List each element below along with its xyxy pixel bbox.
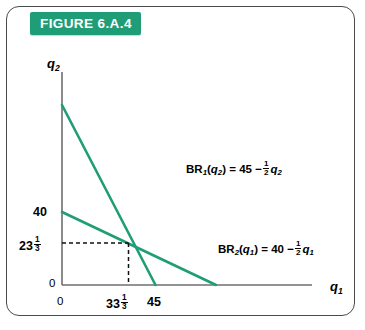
br1-slope-variable-subscript: 2 bbox=[277, 168, 281, 177]
y-axis-title-base: q bbox=[47, 56, 55, 71]
br1-paren-close: ) bbox=[222, 163, 226, 175]
y-tick-23-fraction: 13 bbox=[34, 236, 41, 254]
br1-name: BR bbox=[186, 163, 203, 175]
y-tick-label-40: 40 bbox=[33, 206, 47, 219]
br1-curve bbox=[62, 105, 156, 285]
br1-slope-fraction: 12 bbox=[263, 160, 269, 177]
br2-equation-label: BR2(q1) = 40 −12q1 bbox=[218, 240, 314, 257]
x-tick-33-whole: 33 bbox=[106, 297, 120, 311]
br1-argument: q bbox=[211, 163, 218, 175]
br2-intercept: 40 bbox=[271, 243, 284, 255]
br2-paren-close: ) bbox=[254, 243, 258, 255]
br1-intercept: 45 bbox=[239, 163, 252, 175]
br1-equals: = bbox=[229, 163, 236, 175]
y-tick-label-23-and-one-third: 2313 bbox=[19, 236, 42, 254]
x-axis-title-base: q bbox=[330, 279, 338, 294]
x-tick-45-value: 45 bbox=[147, 295, 161, 309]
x-tick-33-fraction: 13 bbox=[121, 294, 128, 312]
x-axis-title: q1 bbox=[330, 279, 343, 296]
y-axis-origin-label: 0 bbox=[49, 278, 55, 290]
x-axis-origin-label: 0 bbox=[57, 296, 63, 308]
y-axis-title-subscript: 2 bbox=[55, 63, 60, 73]
x-tick-label-33-and-one-third: 3313 bbox=[106, 294, 129, 312]
br1-equation-label: BR1(q2) = 45 −12q2 bbox=[186, 160, 282, 177]
y-tick-40-value: 40 bbox=[33, 205, 47, 219]
br2-argument: q bbox=[243, 243, 250, 255]
br2-equals: = bbox=[261, 243, 268, 255]
x-axis-title-subscript: 1 bbox=[338, 286, 343, 296]
br1-minus: − bbox=[255, 163, 262, 175]
br2-minus: − bbox=[287, 243, 294, 255]
x-tick-label-45: 45 bbox=[147, 296, 161, 309]
x-tick-33-denominator: 3 bbox=[121, 303, 128, 311]
br2-name: BR bbox=[218, 243, 235, 255]
y-tick-23-whole: 23 bbox=[19, 239, 33, 253]
y-tick-23-denominator: 3 bbox=[34, 245, 41, 253]
br2-slope-variable-subscript: 1 bbox=[309, 248, 313, 257]
br1-slope-denominator: 2 bbox=[263, 169, 269, 177]
y-axis-title: q2 bbox=[47, 56, 60, 73]
figure-root: FIGURE 6.A.4 q2 q1 40 2313 0 0 3313 45 bbox=[0, 0, 365, 330]
br2-slope-denominator: 2 bbox=[295, 249, 301, 257]
br2-curve bbox=[62, 212, 216, 285]
br2-slope-fraction: 12 bbox=[295, 240, 301, 257]
